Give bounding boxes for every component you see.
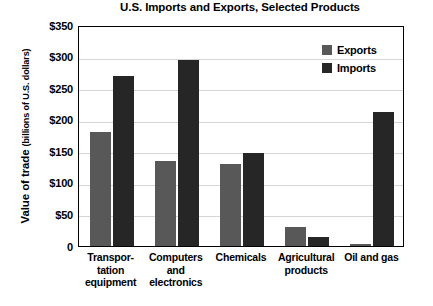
bar-imports xyxy=(113,76,134,246)
x-tick-label: Computers and electronics xyxy=(140,251,211,289)
bar-imports xyxy=(178,60,199,246)
x-tick-label: Agricultural products xyxy=(271,251,342,276)
x-tick-label: Oil and gas xyxy=(336,251,407,264)
chart-title: U.S. Imports and Exports, Selected Produ… xyxy=(60,1,420,14)
legend-swatch-imports-icon xyxy=(322,63,332,73)
legend-label-imports: Imports xyxy=(337,62,376,74)
legend-label-exports: Exports xyxy=(337,44,377,56)
legend-swatch-exports-icon xyxy=(322,45,332,55)
y-tick-label: $150 xyxy=(20,146,73,159)
chart-legend: Exports Imports xyxy=(322,42,402,78)
bar-exports xyxy=(90,132,111,246)
legend-item-imports: Imports xyxy=(322,60,402,75)
y-tick-label: $200 xyxy=(20,114,73,127)
bar-exports xyxy=(155,161,176,246)
y-tick-label: 0 xyxy=(20,241,73,254)
y-tick-label: $350 xyxy=(20,20,73,33)
chart-figure: U.S. Imports and Exports, Selected Produ… xyxy=(0,0,433,306)
legend-item-exports: Exports xyxy=(322,42,402,57)
bar-exports xyxy=(220,164,241,246)
y-tick-label: $300 xyxy=(20,51,73,64)
bar-exports xyxy=(350,244,371,246)
x-tick-label: Transpor- tation equipment xyxy=(75,251,146,289)
bar-exports xyxy=(285,227,306,246)
y-tick-label: $250 xyxy=(20,83,73,96)
y-tick-label: $100 xyxy=(20,177,73,190)
x-tick-label: Chemicals xyxy=(205,251,276,264)
bar-imports xyxy=(243,153,264,246)
bar-imports xyxy=(373,112,394,246)
bar-imports xyxy=(308,237,329,246)
y-tick-label: $50 xyxy=(20,209,73,222)
